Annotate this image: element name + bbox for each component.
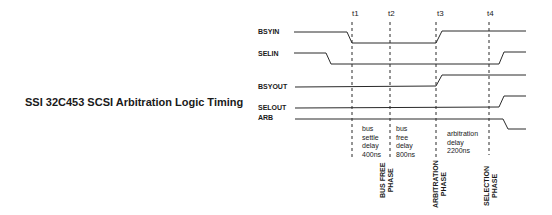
phase-label-bus-free: BUS FREE PHASE [379,163,394,198]
phase-label-arbitration: ARBITRATION PHASE [432,160,447,208]
waveform-bsyin [294,31,526,43]
phase-label-selection: SELECTION PHASE [483,166,498,206]
interval-note-bus-free: bus free delay 800ns [396,125,415,159]
interval-note-arbitration: arbitration delay 2200ns [447,130,478,156]
waveform-selin [294,52,526,64]
timing-waveforms [0,0,552,215]
waveform-bsyout [295,75,526,87]
waveform-selout [295,96,526,108]
interval-note-bus-settle: bus settle delay 400ns [362,125,381,159]
